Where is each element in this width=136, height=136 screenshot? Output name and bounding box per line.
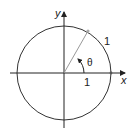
- radius-line: [64, 31, 88, 73]
- angle-arc: [78, 59, 84, 73]
- x-axis-label: x: [120, 74, 127, 86]
- point-on-circle: [86, 29, 89, 32]
- x-unit-label: 1: [84, 76, 90, 88]
- angle-label: θ: [87, 57, 93, 68]
- radius-label: 1: [104, 35, 110, 47]
- point-x-intercept: [110, 72, 113, 75]
- unit-circle-diagram: y x 1 1 θ: [0, 0, 136, 136]
- y-axis-label: y: [54, 7, 62, 19]
